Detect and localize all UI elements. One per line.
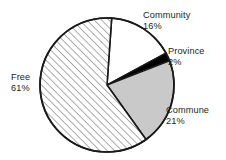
pie-chart-svg xyxy=(0,0,226,160)
pie-label-free: Free 61% xyxy=(11,72,30,94)
pie-label-community-value: 16% xyxy=(143,21,190,32)
pie-label-province-name: Province xyxy=(168,46,205,57)
pie-label-province: Province 2% xyxy=(168,46,205,68)
pie-label-commune-name: Commune xyxy=(166,105,209,116)
pie-label-commune-value: 21% xyxy=(166,116,209,127)
pie-label-free-name: Free xyxy=(11,72,30,83)
pie-label-community: Community 16% xyxy=(143,10,190,32)
pie-label-commune: Commune 21% xyxy=(166,105,209,127)
pie-label-province-value: 2% xyxy=(168,57,205,68)
pie-chart-figure: Community 16% Province 2% Commune 21% Fr… xyxy=(0,0,226,160)
pie-label-community-name: Community xyxy=(143,10,190,21)
pie-label-free-value: 61% xyxy=(11,83,30,94)
